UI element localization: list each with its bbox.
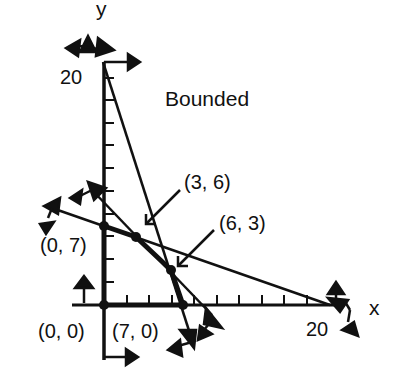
arrow-icon bbox=[75, 276, 93, 288]
arrow-icon bbox=[44, 198, 60, 214]
arrow-icon bbox=[168, 340, 182, 356]
y-max-label: 20 bbox=[60, 66, 82, 88]
arrow-icon bbox=[40, 222, 54, 234]
vertex-label-6-3: (6, 3) bbox=[219, 212, 266, 234]
arrow-icon bbox=[70, 190, 82, 204]
vertex-label-7-0: (7, 0) bbox=[112, 320, 159, 342]
feasible-region-diagram: x y 20 20 bbox=[0, 0, 411, 381]
vertex-3-6 bbox=[131, 232, 141, 242]
vertex-7-0 bbox=[178, 300, 188, 310]
x-axis-label: x bbox=[369, 296, 380, 319]
arrow-icon bbox=[342, 322, 358, 336]
arrow-icon bbox=[198, 326, 212, 340]
vertex-label-0-7: (0, 7) bbox=[40, 234, 87, 256]
vertices bbox=[99, 221, 188, 310]
vertex-label-3-6: (3, 6) bbox=[184, 171, 231, 193]
direction-arrows bbox=[40, 36, 358, 365]
arrow-icon bbox=[128, 54, 140, 70]
region-title: Bounded bbox=[165, 87, 249, 110]
vertex-origin bbox=[99, 300, 109, 310]
vertex-label-origin: (0, 0) bbox=[38, 320, 85, 342]
arrow-icon bbox=[126, 349, 138, 365]
vertex-6-3 bbox=[166, 265, 176, 275]
y-axis-label: y bbox=[96, 0, 107, 20]
arrow-icon bbox=[96, 38, 114, 56]
vertex-0-7 bbox=[99, 221, 109, 231]
constraint-line-shallow bbox=[52, 208, 330, 305]
x-max-label: 20 bbox=[306, 318, 328, 340]
arrow-icon bbox=[66, 40, 80, 56]
arrow-icon bbox=[80, 36, 96, 52]
